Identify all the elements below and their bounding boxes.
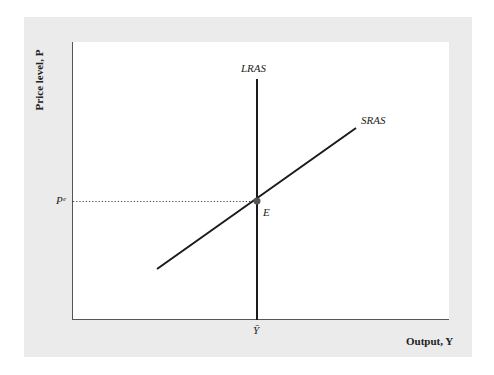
lras-label: LRAS [241, 62, 266, 74]
equilibrium-label: E [263, 206, 270, 218]
y-axis-label: Price level, P [33, 20, 45, 140]
diagram-svg [0, 0, 494, 375]
equilibrium-point [254, 198, 261, 205]
ybar-tick-label: Ȳ [253, 324, 259, 336]
sras-label: SRAS [361, 114, 385, 126]
x-axis-label: Output, Y [406, 335, 453, 347]
pe-tick-label: Pᵉ [56, 194, 66, 206]
